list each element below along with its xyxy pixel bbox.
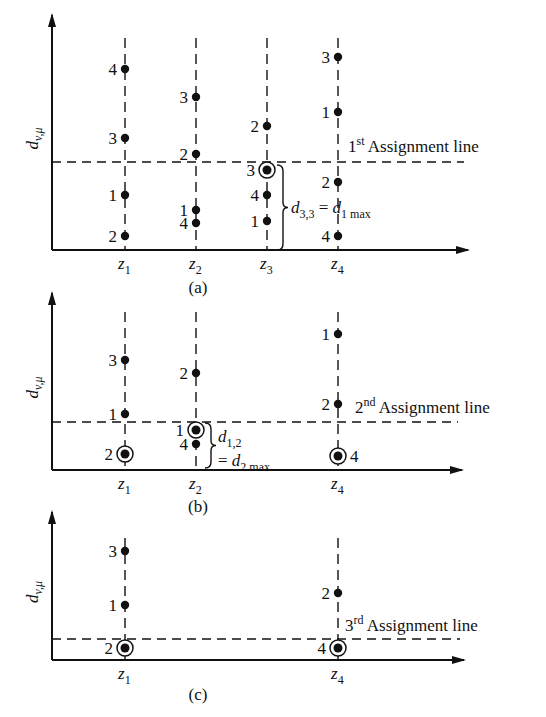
point-label: 1 — [251, 212, 260, 231]
data-point: 2 — [105, 445, 134, 464]
point-dot-icon — [121, 232, 129, 240]
column-label: z2 — [188, 254, 202, 277]
point-dot-icon — [192, 93, 200, 101]
point-dot-icon — [263, 166, 272, 175]
point-dot-icon — [334, 644, 343, 653]
point-dot-icon — [192, 206, 200, 214]
point-dot-icon — [121, 601, 129, 609]
point-dot-icon — [334, 589, 342, 597]
column-label: z4 — [330, 474, 344, 497]
data-point: 4 — [251, 186, 272, 205]
point-dot-icon — [121, 547, 129, 555]
point-label: 3 — [109, 129, 118, 148]
column-label: z1 — [117, 254, 131, 277]
point-label: 3 — [247, 161, 256, 180]
data-point: 1 — [109, 596, 130, 615]
point-dot-icon — [121, 450, 130, 459]
point-label: 2 — [105, 639, 114, 658]
data-point: 2 — [109, 227, 130, 246]
data-point: 1 — [109, 186, 130, 205]
point-label: 3 — [109, 351, 118, 370]
point-dot-icon — [192, 369, 200, 377]
data-point: 2 — [180, 364, 201, 383]
data-point: 2 — [105, 639, 134, 658]
point-label: 1 — [109, 405, 118, 424]
point-label: 3 — [180, 88, 189, 107]
panel-caption: (a) — [189, 278, 208, 297]
point-label: 2 — [109, 227, 118, 246]
panels: dv,μz14312z23214z32341z431241st Assignme… — [23, 15, 490, 704]
panel-caption: (c) — [189, 685, 208, 704]
point-label: 2 — [105, 445, 114, 464]
column-label: z4 — [330, 664, 344, 687]
data-point: 1 — [322, 325, 343, 344]
point-dot-icon — [334, 178, 342, 186]
point-label: 2 — [322, 395, 331, 414]
column-z1: z14312 — [109, 38, 131, 277]
data-point: 4 — [318, 639, 347, 658]
data-point: 2 — [251, 117, 272, 136]
data-point: 3 — [247, 161, 276, 180]
point-dot-icon — [334, 232, 342, 240]
brace-icon — [277, 165, 288, 250]
data-point: 3 — [109, 351, 130, 370]
point-label: 2 — [322, 584, 331, 603]
assignment-line-label: 3rd Assignment line — [345, 613, 478, 635]
point-dot-icon — [192, 150, 200, 158]
point-dot-icon — [121, 191, 129, 199]
data-point: 1 — [109, 405, 130, 424]
point-dot-icon — [263, 122, 271, 130]
brace-note: d1,2 — [218, 427, 242, 450]
point-label: 4 — [180, 435, 189, 454]
point-label: 2 — [180, 364, 189, 383]
point-dot-icon — [121, 410, 129, 418]
point-label: 4 — [350, 447, 359, 466]
point-dot-icon — [121, 644, 130, 653]
data-point: 2 — [322, 173, 343, 192]
column-label: z2 — [188, 474, 202, 497]
y-axis-label: dv,μ — [23, 377, 45, 399]
column-z2: z23214 — [180, 38, 202, 277]
point-dot-icon — [121, 356, 129, 364]
point-dot-icon — [334, 330, 342, 338]
point-label: 1 — [109, 596, 118, 615]
point-dot-icon — [192, 426, 201, 435]
assignment-line-label: 1st Assignment line — [348, 134, 479, 156]
point-label: 4 — [180, 214, 189, 233]
point-dot-icon — [334, 108, 342, 116]
column-z1: z1312 — [105, 538, 134, 687]
assignment-diagram: dv,μz14312z23214z32341z431241st Assignme… — [0, 0, 546, 717]
point-dot-icon — [121, 134, 129, 142]
data-point: 3 — [322, 48, 343, 67]
point-label: 3 — [109, 542, 118, 561]
point-dot-icon — [121, 65, 129, 73]
point-label: 1 — [322, 103, 331, 122]
column-label: z1 — [117, 474, 131, 497]
point-label: 2 — [322, 173, 331, 192]
point-label: 2 — [251, 117, 260, 136]
column-label: z1 — [117, 664, 131, 687]
point-label: 1 — [322, 325, 331, 344]
point-dot-icon — [192, 219, 200, 227]
panel-caption: (b) — [188, 497, 208, 516]
data-point: 4 — [322, 227, 343, 246]
data-point: 2 — [322, 584, 343, 603]
data-point: 3 — [109, 129, 130, 148]
column-z3: z32341 — [247, 38, 276, 277]
point-label: 4 — [251, 186, 260, 205]
column-z4: z43124 — [322, 38, 344, 277]
point-label: 2 — [180, 145, 189, 164]
point-dot-icon — [263, 191, 271, 199]
y-axis-label: dv,μ — [23, 581, 45, 603]
point-label: 3 — [322, 48, 331, 67]
data-point: 4 — [330, 447, 359, 466]
column-z4: z424 — [318, 538, 347, 687]
point-dot-icon — [334, 400, 342, 408]
point-label: 1 — [109, 186, 118, 205]
data-point: 2 — [322, 395, 343, 414]
data-point: 2 — [180, 145, 201, 164]
point-dot-icon — [263, 217, 271, 225]
panel-c: dv,μz1312z4243rd Assignment line(c) — [23, 512, 478, 704]
point-label: 4 — [318, 639, 327, 658]
point-dot-icon — [192, 440, 200, 448]
